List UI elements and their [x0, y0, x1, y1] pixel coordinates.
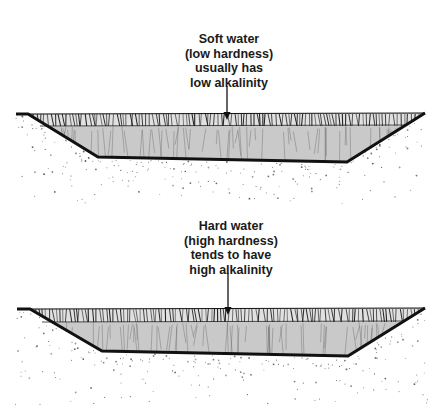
soil-speckle-dot — [136, 172, 137, 173]
soil-speckle-dot — [315, 365, 317, 367]
soil-speckle-dot — [54, 142, 55, 143]
soil-speckle-dot — [422, 394, 423, 395]
soil-speckle-dot — [260, 187, 261, 188]
soil-speckle-dot — [123, 357, 124, 358]
soil-speckle-dot — [417, 319, 419, 321]
soil-speckle-dot — [141, 162, 142, 163]
soil-speckle-dot — [62, 173, 63, 174]
soil-speckle-dot — [416, 374, 417, 375]
soil-speckle-dot — [100, 161, 101, 162]
hatch-stroke — [214, 309, 215, 322]
soil-speckle-dot — [21, 126, 23, 128]
soil-speckle-dot — [385, 359, 386, 360]
soil-speckle-dot — [147, 371, 148, 372]
soil-speckle-dot — [42, 141, 43, 142]
water-streak — [415, 126, 416, 172]
soil-speckle-dot — [397, 134, 398, 135]
soil-speckle-dot — [148, 168, 149, 169]
soil-speckle-dot — [145, 383, 146, 384]
soil-speckle-dot — [39, 404, 40, 405]
soil-speckle-dot — [142, 166, 143, 167]
soil-speckle-dot — [136, 164, 137, 165]
soil-speckle-dot — [247, 394, 248, 395]
soil-speckle-dot — [272, 167, 273, 168]
soil-speckle-dot — [25, 371, 26, 372]
soil-speckle-dot — [128, 185, 129, 186]
soil-speckle-dot — [349, 368, 350, 369]
soil-speckle-dot — [226, 161, 228, 163]
soil-speckle-dot — [339, 184, 340, 185]
soil-speckle-dot — [344, 384, 345, 385]
soil-speckle-dot — [138, 191, 140, 193]
soil-speckle-dot — [63, 166, 64, 167]
soil-speckle-dot — [240, 371, 242, 373]
soil-speckle-dot — [172, 370, 173, 371]
soil-speckle-dot — [374, 373, 375, 374]
soil-speckle-dot — [181, 178, 182, 179]
soil-speckle-dot — [30, 314, 31, 315]
hatch-stroke — [334, 309, 335, 322]
soil-speckle-dot — [81, 159, 82, 160]
soil-speckle-dot — [407, 129, 409, 131]
soil-speckle-dot — [195, 359, 197, 361]
soil-speckle-dot — [209, 395, 210, 396]
soil-speckle-dot — [147, 170, 148, 171]
soil-speckle-dot — [135, 176, 136, 177]
soil-speckle-dot — [365, 152, 366, 153]
soil-speckle-dot — [301, 164, 302, 165]
soil-speckle-dot — [129, 365, 131, 367]
soil-speckle-dot — [348, 172, 349, 173]
soil-speckle-dot — [409, 126, 410, 127]
soil-speckle-dot — [370, 153, 372, 155]
soil-speckle-dot — [248, 357, 250, 359]
soil-speckle-dot — [358, 358, 359, 359]
soil-speckle-dot — [292, 178, 294, 180]
soil-speckle-dot — [117, 364, 118, 365]
soil-speckle-dot — [165, 179, 166, 180]
soil-speckle-dot — [122, 180, 123, 181]
soil-speckle-dot — [297, 183, 298, 184]
soil-speckle-dot — [304, 166, 305, 167]
soil-speckle-dot — [142, 379, 143, 380]
soil-speckle-dot — [190, 182, 192, 184]
soil-speckle-dot — [363, 155, 364, 156]
soil-speckle-dot — [95, 169, 97, 171]
soil-speckle-dot — [372, 163, 374, 165]
soil-speckle-dot — [75, 392, 77, 394]
soil-speckle-dot — [314, 400, 315, 401]
soil-speckle-dot — [44, 132, 45, 133]
soil-speckle-dot — [390, 340, 391, 341]
soil-speckle-dot — [70, 401, 71, 402]
soil-speckle-dot — [417, 340, 419, 342]
soil-speckle-dot — [208, 167, 210, 169]
soil-speckle-dot — [266, 192, 267, 193]
soil-speckle-dot — [210, 363, 211, 364]
soil-speckle-dot — [77, 347, 79, 349]
soil-speckle-dot — [267, 403, 268, 404]
water-streak — [399, 132, 403, 172]
soil-speckle-dot — [70, 179, 71, 180]
soil-speckle-dot — [307, 358, 309, 360]
soil-speckle-dot — [77, 200, 78, 201]
soil-speckle-dot — [70, 175, 71, 176]
soil-speckle-dot — [48, 168, 49, 169]
soil-speckle-dot — [353, 161, 354, 162]
soil-speckle-dot — [374, 348, 376, 350]
hatch-stroke — [30, 309, 31, 322]
soil-speckle-dot — [391, 336, 392, 337]
soil-speckle-dot — [21, 372, 22, 373]
soil-speckle-dot — [193, 366, 194, 367]
soil-speckle-dot — [196, 171, 197, 172]
soil-speckle-dot — [239, 197, 240, 198]
soil-speckle-dot — [263, 369, 264, 370]
hatch-stroke — [241, 114, 242, 126]
soil-speckle-dot — [381, 347, 382, 348]
soil-speckle-dot — [355, 363, 357, 365]
soil-speckle-dot — [341, 166, 342, 167]
soil-speckle-dot — [279, 164, 281, 166]
soil-speckle-dot — [208, 387, 209, 388]
soil-speckle-dot — [385, 389, 386, 390]
soil-speckle-dot — [379, 146, 380, 147]
surface-hatch-band — [20, 309, 430, 322]
soil-speckle-dot — [394, 196, 395, 197]
